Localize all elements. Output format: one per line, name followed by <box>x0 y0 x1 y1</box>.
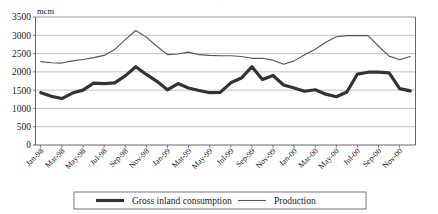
legend-label-gross-inland-consumption: Gross inland consumption <box>132 196 232 206</box>
y-tick-label: 2000 <box>12 67 31 77</box>
y-tick-label: 0 <box>26 140 31 150</box>
chart-background <box>0 0 438 214</box>
y-tick-label: 1000 <box>12 104 31 114</box>
y-tick-label: 3500 <box>12 12 31 22</box>
y-tick-label: 1500 <box>12 86 31 96</box>
chart-figure: · 0500100015002000250030003500 Jan-98Mar… <box>0 0 438 214</box>
y-tick-label: 3000 <box>12 31 31 41</box>
page-artifact-text: · <box>0 0 438 4</box>
line-chart-canvas: 0500100015002000250030003500 Jan-98Mar-9… <box>0 0 438 214</box>
y-tick-label: 2500 <box>12 49 31 59</box>
chart-legend: Gross inland consumptionProduction <box>74 192 366 209</box>
legend-label-production: Production <box>274 196 316 206</box>
y-tick-label: 500 <box>17 122 32 132</box>
y-axis-unit-label: mcm <box>37 6 54 16</box>
